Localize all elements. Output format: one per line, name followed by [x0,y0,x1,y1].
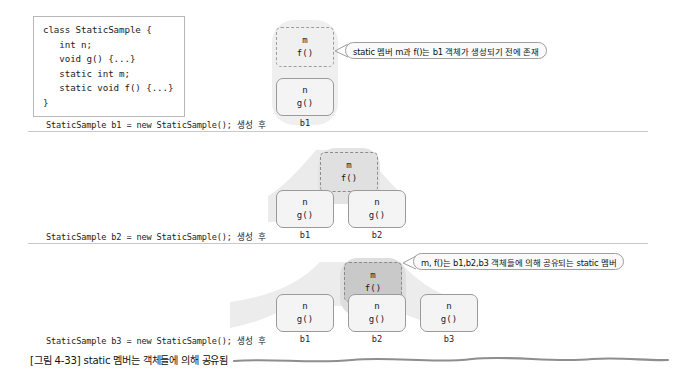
object-label-b1: b1 [285,118,325,128]
callout-stage1: static 멤버 m과 f()는 b1 객체가 생성되기 전에 존재 [345,42,547,59]
instance-method: g() [369,313,385,326]
divider [28,131,648,132]
stage-caption-3: StaticSample b3 = new StaticSample(); 생성… [46,334,265,346]
divider [28,243,648,244]
instance-field: n [446,300,451,313]
object-box-b1: n g() [276,78,334,116]
instance-method: g() [297,209,313,222]
instance-field: n [302,196,307,209]
figure-static-member-sharing: class StaticSample { int n; void g() {..… [0,0,676,381]
instance-method: g() [441,313,457,326]
instance-method: g() [369,209,385,222]
static-member-box: m f() [320,152,378,192]
object-label-b1: b1 [285,334,325,344]
object-box-b1: n g() [276,190,334,228]
instance-method: g() [297,313,313,326]
instance-field: n [374,300,379,313]
static-member-method: f() [297,47,313,60]
static-member-field: m [370,269,375,282]
object-box-b2: n g() [348,190,406,228]
object-box-b3: n g() [420,294,478,332]
object-label-b2: b2 [357,230,397,240]
stage-caption-2: StaticSample b2 = new StaticSample(); 생성… [46,230,265,242]
static-member-field: m [346,159,351,172]
stage-caption-1: StaticSample b1 = new StaticSample(); 생성… [46,118,265,130]
static-member-box: m f() [276,27,334,67]
callout-stage3: m, f()는 b1,b2,b3 객체들에 의해 공유되는 static 멤버 [413,253,624,270]
instance-method: g() [297,97,313,110]
instance-field: n [302,84,307,97]
object-box-b1: n g() [276,294,334,332]
instance-field: n [374,196,379,209]
object-box-b2: n g() [348,294,406,332]
static-member-field: m [302,34,307,47]
static-member-method: f() [341,172,357,185]
object-label-b2: b2 [357,334,397,344]
object-label-b1: b1 [285,230,325,240]
object-label-b3: b3 [429,334,469,344]
instance-field: n [302,300,307,313]
